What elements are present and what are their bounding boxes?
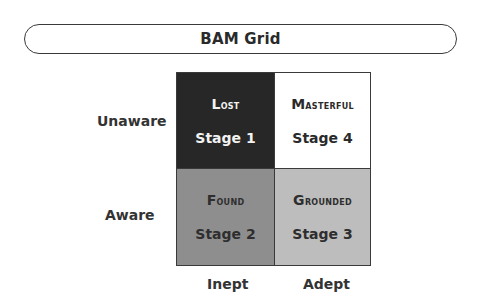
- row-label-unaware: Unaware: [97, 113, 167, 129]
- cell-name: Found: [207, 192, 245, 208]
- cell-name: Masterful: [291, 96, 354, 112]
- cell-name: Grounded: [293, 192, 352, 208]
- bam-grid: Lost Stage 1 Masterful Stage 4 Found Sta…: [176, 72, 371, 266]
- cell-stage: Stage 3: [292, 226, 352, 242]
- cell-lost: Lost Stage 1: [177, 73, 275, 169]
- col-label-inept: Inept: [207, 276, 248, 292]
- cell-stage: Stage 1: [195, 130, 255, 146]
- col-label-adept: Adept: [303, 276, 350, 292]
- cell-found: Found Stage 2: [177, 169, 275, 265]
- cell-name: Lost: [211, 96, 239, 112]
- title-banner: BAM Grid: [24, 24, 457, 54]
- cell-stage: Stage 4: [292, 130, 352, 146]
- cell-masterful: Masterful Stage 4: [275, 73, 370, 169]
- cell-stage: Stage 2: [195, 226, 255, 242]
- diagram-title: BAM Grid: [200, 30, 280, 48]
- row-label-aware: Aware: [105, 207, 155, 223]
- cell-grounded: Grounded Stage 3: [275, 169, 370, 265]
